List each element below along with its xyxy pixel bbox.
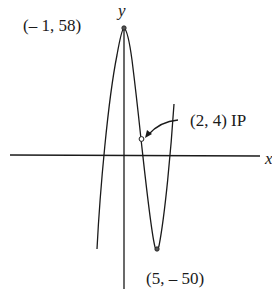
local-max-marker <box>122 26 126 30</box>
inflection-label: (2, 4) IP <box>190 112 246 129</box>
x-axis <box>10 155 260 156</box>
local-min-marker <box>155 247 159 251</box>
y-axis-label: y <box>118 2 126 19</box>
x-axis-label: x <box>265 150 272 167</box>
graph-canvas <box>0 0 272 289</box>
inflection-marker <box>139 137 144 142</box>
pointer-arrow <box>148 120 178 135</box>
cubic-curve <box>97 28 174 249</box>
local-min-label: (5, – 50) <box>146 270 204 287</box>
local-max-label: (– 1, 58) <box>23 17 81 34</box>
